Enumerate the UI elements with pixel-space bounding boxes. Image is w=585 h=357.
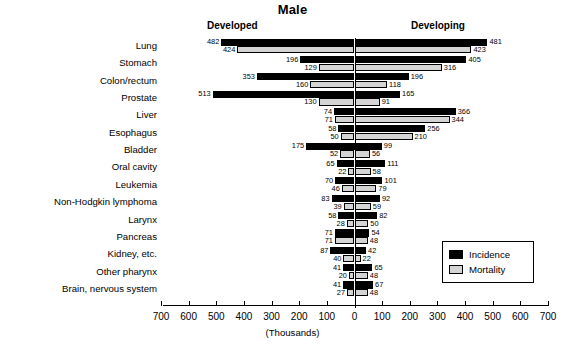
bar-value-label: 344 [452, 116, 464, 123]
chart-row: Leukemia704610179 [0, 177, 585, 194]
bar-value-label: 91 [382, 98, 390, 105]
bar-mortality-right [355, 289, 368, 296]
bar-value-label: 405 [468, 56, 480, 63]
bar-value-label: 71 [325, 116, 333, 123]
legend: Incidence Mortality [442, 241, 534, 283]
legend-label-mortality: Mortality [469, 265, 505, 275]
x-axis: 7006005004003002001000100200300400500600… [0, 305, 585, 357]
bar-value-label: 210 [415, 133, 427, 140]
axis-caption: (Thousands) [0, 327, 585, 338]
bar-mortality-left [347, 289, 354, 296]
bar-value-label: 129 [304, 64, 316, 71]
bar-value-label: 196 [411, 73, 423, 80]
bar-value-label: 256 [427, 125, 439, 132]
bar-group: 7471366344 [0, 107, 585, 124]
bar-mortality-left [340, 150, 354, 157]
axis-tick [465, 301, 466, 306]
bar-mortality-right [355, 81, 388, 88]
panel-label-developing: Developing [411, 20, 465, 31]
bar-mortality-left [335, 116, 355, 123]
bar-value-label: 46 [332, 185, 340, 192]
bar-value-label: 82 [379, 212, 387, 219]
bar-value-label: 160 [296, 81, 308, 88]
bar-group: 5850256210 [0, 125, 585, 142]
bar-value-label: 92 [382, 195, 390, 202]
legend-item-mortality: Mortality [449, 262, 533, 277]
legend-item-incidence: Incidence [449, 247, 533, 262]
bar-value-label: 56 [372, 150, 380, 157]
bar-value-label: 513 [198, 90, 210, 97]
bar-group: 652211158 [0, 159, 585, 176]
bar-value-label: 58 [373, 168, 381, 175]
chart-row: Esophagus5850256210 [0, 125, 585, 142]
bar-incidence-right [355, 108, 456, 115]
bar-value-label: 118 [389, 81, 401, 88]
bar-incidence-right [355, 39, 488, 46]
bar-value-label: 99 [384, 142, 392, 149]
axis-tick [493, 301, 494, 306]
axis-tick [548, 301, 549, 306]
chart-container: Male Developed Developing Lung4824244814… [0, 0, 585, 357]
bar-mortality-left [319, 98, 355, 105]
axis-tick [189, 301, 190, 306]
bar-value-label: 481 [489, 38, 501, 45]
bar-mortality-left [341, 133, 355, 140]
bar-incidence-right [355, 247, 367, 254]
bar-mortality-left [335, 237, 355, 244]
chart-row: Oral cavity652211158 [0, 159, 585, 176]
bar-incidence-left [213, 91, 355, 98]
bar-value-label: 59 [373, 203, 381, 210]
bar-group: 704610179 [0, 177, 585, 194]
bar-mortality-right [355, 133, 413, 140]
legend-label-incidence: Incidence [469, 250, 510, 260]
bar-incidence-left [338, 125, 354, 132]
bar-mortality-right [355, 150, 370, 157]
bar-value-label: 20 [339, 272, 347, 279]
bar-mortality-right [355, 46, 472, 53]
bar-group: 58288250 [0, 212, 585, 229]
bar-incidence-right [355, 229, 370, 236]
axis-tick [272, 301, 273, 306]
bar-value-label: 50 [330, 133, 338, 140]
axis-tick [244, 301, 245, 306]
bar-mortality-left [319, 64, 355, 71]
bar-value-label: 87 [320, 247, 328, 254]
chart-row: Non-Hodgkin lymphoma83399259 [0, 194, 585, 211]
legend-swatch-mortality [449, 265, 463, 274]
bar-incidence-left [335, 229, 355, 236]
bar-mortality-right [355, 203, 371, 210]
bar-value-label: 58 [328, 212, 336, 219]
bar-value-label: 40 [333, 255, 341, 262]
zero-axis-line [355, 38, 356, 308]
bar-mortality-right [355, 220, 369, 227]
bar-mortality-left [343, 255, 354, 262]
bar-value-label: 48 [370, 237, 378, 244]
chart-row: Larynx58288250 [0, 212, 585, 229]
bar-mortality-left [310, 81, 354, 88]
bar-mortality-left [237, 46, 354, 53]
bar-value-label: 50 [370, 220, 378, 227]
bar-value-label: 424 [223, 46, 235, 53]
bar-value-label: 83 [321, 195, 329, 202]
axis-tick [382, 301, 383, 306]
bar-incidence-right [355, 56, 467, 63]
bar-value-label: 482 [207, 38, 219, 45]
axis-tick [410, 301, 411, 306]
bar-mortality-left [347, 220, 355, 227]
bar-value-label: 111 [387, 160, 398, 167]
chart-row: Brain, nervous system41276748 [0, 281, 585, 298]
bar-group: 196129405316 [0, 55, 585, 72]
bar-value-label: 71 [325, 237, 333, 244]
bar-group: 41276748 [0, 281, 585, 298]
bar-value-label: 39 [333, 203, 341, 210]
bar-value-label: 165 [402, 90, 414, 97]
bar-value-label: 27 [337, 289, 345, 296]
axis-tick [520, 301, 521, 306]
axis-tick [216, 301, 217, 306]
bar-group: 482424481423 [0, 38, 585, 55]
chart-row: Lung482424481423 [0, 38, 585, 55]
bar-value-label: 42 [368, 247, 376, 254]
bar-mortality-left [344, 203, 355, 210]
bar-value-label: 130 [304, 98, 316, 105]
bar-value-label: 28 [337, 220, 345, 227]
